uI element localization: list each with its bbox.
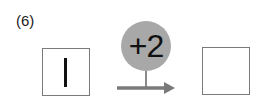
- answer-box[interactable]: [202, 47, 250, 95]
- operation-circle: +2: [121, 21, 171, 71]
